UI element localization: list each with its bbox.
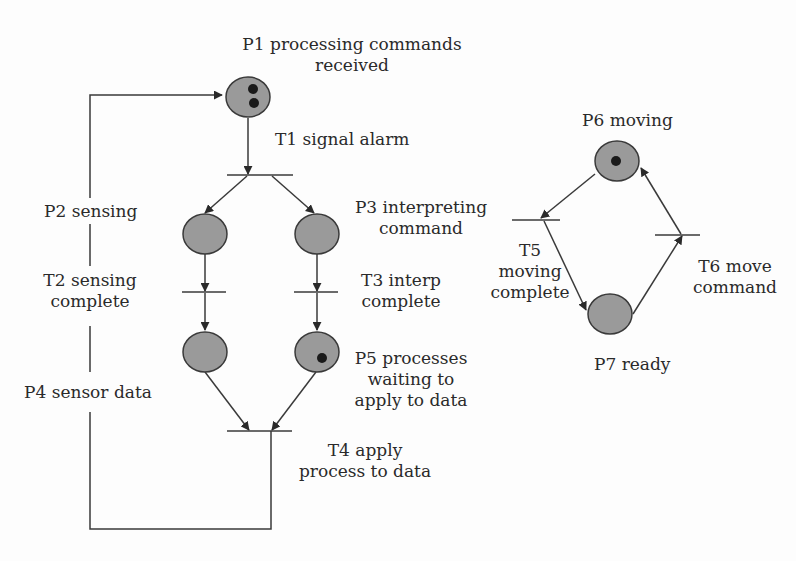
label-t4: T4 apply process to data (290, 440, 440, 482)
token (249, 98, 259, 108)
label-p3-line1: P3 interpreting (346, 197, 496, 218)
arc-p5-to-t4 (272, 372, 316, 430)
label-p5-line2: waiting to (346, 369, 476, 390)
label-t5-line1: T5 (490, 240, 570, 261)
label-t5-line2: moving (490, 261, 570, 282)
place-p7 (588, 294, 632, 334)
label-t3-line2: complete (346, 291, 456, 312)
label-p1: P1 processing commands received (232, 34, 472, 76)
place-p2 (183, 214, 227, 254)
label-p5: P5 processes waiting to apply to data (346, 348, 476, 411)
arc-t1-to-p2 (205, 176, 247, 213)
label-p5-line1: P5 processes (346, 348, 476, 369)
arc-p6-to-t5 (541, 174, 595, 218)
label-t2-line1: T2 sensing (20, 270, 160, 291)
label-t6: T6 move command (680, 256, 790, 298)
label-p5-line3: apply to data (346, 390, 476, 411)
label-t5: T5 moving complete (490, 240, 570, 303)
arc-t1-to-p3 (272, 176, 314, 213)
label-p6: P6 moving (582, 110, 673, 131)
place-p5 (295, 332, 339, 372)
token (611, 156, 621, 166)
label-p4: P4 sensor data (24, 382, 152, 403)
place-p1 (226, 77, 270, 117)
label-p1-line1: P1 processing commands (232, 34, 472, 55)
place-p3 (295, 214, 339, 254)
arc-t6-to-p6 (641, 168, 681, 234)
label-t4-line1: T4 apply (290, 440, 440, 461)
label-p2: P2 sensing (44, 201, 137, 222)
token (248, 84, 258, 94)
label-p3-line2: command (346, 218, 496, 239)
place-p4 (183, 332, 227, 372)
label-t3: T3 interp complete (346, 270, 456, 312)
label-p7: P7 ready (594, 354, 670, 375)
label-t4-line2: process to data (290, 461, 440, 482)
token (317, 353, 327, 363)
label-p1-line2: received (232, 55, 472, 76)
label-t1: T1 signal alarm (275, 129, 409, 150)
petri-net-diagram: P1 processing commands received T1 signa… (0, 0, 796, 561)
label-t2-line2: complete (20, 291, 160, 312)
label-t2: T2 sensing complete (20, 270, 160, 312)
arc-p7-to-t6 (633, 236, 682, 314)
label-t5-line3: complete (490, 282, 570, 303)
label-t6-line2: command (680, 277, 790, 298)
label-p3: P3 interpreting command (346, 197, 496, 239)
label-t6-line1: T6 move (680, 256, 790, 277)
label-t3-line1: T3 interp (346, 270, 456, 291)
arc-p4-to-t4 (205, 372, 249, 430)
